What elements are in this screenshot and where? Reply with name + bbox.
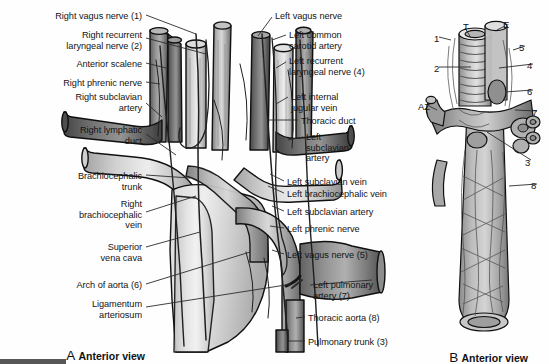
label-num-1: 1 <box>434 33 439 44</box>
label-brachiocephalic-trunk: Brachiocephalic trunk <box>78 171 142 192</box>
panel-b-posterior-mediastinum: TE15246AZ738 B Anterior view <box>415 0 549 364</box>
panel-a-caption-text: Anterior view <box>78 350 145 362</box>
label-right-lymphatic-duct: Right lymphatic duct <box>80 125 142 146</box>
label-right-recurrent-laryngeal: Right recurrent laryngeal nerve (2) <box>66 30 142 51</box>
label-left-brachiocephalic-vein: Left brachiocephalic vein <box>287 189 387 200</box>
panel-a-caption-letter: A <box>66 348 75 363</box>
anatomy-figure: Right vagus nerve (1)Right recurrent lar… <box>0 0 549 364</box>
label-num-3: 3 <box>525 157 530 168</box>
label-num-4: 4 <box>527 60 532 71</box>
label-left-internal-jugular-vein: Left internal jugular vein <box>291 92 338 113</box>
panel-b-caption: B Anterior view <box>431 338 528 364</box>
label-num-6: 6 <box>527 86 532 97</box>
label-pulmonary-trunk: Pulmonary trunk (3) <box>308 337 388 348</box>
label-left-common-carotid-artery: Left common carotid artery <box>289 30 342 51</box>
panel-a-superior-mediastinum: Right vagus nerve (1)Right recurrent lar… <box>0 0 415 364</box>
label-trachea: T <box>463 21 469 32</box>
panel-b-caption-letter: B <box>449 350 458 364</box>
label-left-subclavian-artery-b: Left subclavian artery <box>306 132 349 164</box>
label-num-5: 5 <box>519 42 524 53</box>
label-arch-of-aorta: Arch of aorta (6) <box>76 280 142 291</box>
label-right-phrenic-nerve: Right phrenic nerve <box>63 78 142 89</box>
label-thoracic-duct: Thoracic duct <box>301 116 356 127</box>
label-anterior-scalene: Anterior scalene <box>76 59 142 70</box>
label-num-2: 2 <box>434 63 439 74</box>
label-ligamentum-arteriosum: Ligamentum arteriosum <box>92 299 142 320</box>
label-left-phrenic-nerve: Left phrenic nerve <box>287 224 360 235</box>
label-azygos: AZ <box>418 101 430 112</box>
label-left-recurrent-laryngeal: Left recurrent laryngeal nerve (4) <box>289 56 365 77</box>
label-left-pulmonary-artery: Left pulmonary artery (7) <box>313 280 373 301</box>
label-left-subclavian-artery: Left subclavian artery <box>287 207 373 218</box>
label-thoracic-aorta: Thoracic aorta (8) <box>308 313 380 324</box>
label-superior-vena-cava: Superior vena cava <box>101 242 142 263</box>
corner-artifact-bar <box>0 359 66 364</box>
label-esophagus: E <box>503 19 509 30</box>
label-left-vagus-nerve: Left vagus nerve <box>275 11 342 22</box>
label-left-vagus-nerve-5: Left vagus nerve (5) <box>287 250 368 261</box>
label-right-subclavian-artery: Right subclavian artery <box>75 92 142 113</box>
label-num-8: 8 <box>531 180 536 191</box>
label-right-vagus-nerve: Right vagus nerve (1) <box>55 11 142 22</box>
label-right-brachiocephalic-vein: Right brachiocephalic vein <box>79 199 142 231</box>
panel-b-illustration <box>415 0 549 364</box>
label-left-subclavian-vein: Left subclavian vein <box>287 177 367 188</box>
label-num-7: 7 <box>532 107 537 118</box>
panel-b-caption-text: Anterior view <box>461 352 528 364</box>
